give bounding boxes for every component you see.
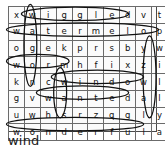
grid-cell[interactable]: o: [9, 40, 25, 57]
grid-cell[interactable]: s: [104, 40, 120, 57]
grid-cell[interactable]: p: [72, 40, 88, 57]
grid-cell[interactable]: v: [24, 90, 40, 107]
grid-cell[interactable]: w: [40, 90, 56, 107]
grid-cell[interactable]: q: [104, 107, 120, 124]
grid-cell[interactable]: z: [136, 57, 152, 74]
grid-cell[interactable]: w: [24, 7, 40, 24]
grid-cell[interactable]: d: [56, 124, 72, 141]
grid-cell[interactable]: e: [40, 40, 56, 57]
grid-cell[interactable]: e: [72, 124, 88, 141]
grid-cell[interactable]: g: [120, 107, 136, 124]
grid-row: xwiggledvt: [9, 7, 166, 24]
grid-cell[interactable]: g: [56, 7, 72, 24]
grid-row: watermelop: [9, 23, 166, 40]
grid-cell[interactable]: l: [136, 124, 152, 141]
grid-cell[interactable]: y: [152, 107, 165, 124]
grid-cell[interactable]: n: [24, 74, 40, 91]
grid-cell[interactable]: i: [72, 74, 88, 91]
grid-cell[interactable]: w: [24, 107, 40, 124]
grid-cell[interactable]: k: [9, 74, 25, 91]
grid-cell[interactable]: t: [152, 7, 165, 24]
word-search-puzzle: xwiggledvtwatermelopogekprsbywwormhfixzi…: [0, 0, 165, 158]
grid-cell[interactable]: l: [120, 23, 136, 40]
grid-cell[interactable]: o: [120, 74, 136, 91]
letter-grid-body: xwiggledvtwatermelopogekprsbywwormhfixzi…: [9, 7, 166, 141]
grid-cell[interactable]: k: [56, 40, 72, 57]
grid-cell[interactable]: e: [104, 23, 120, 40]
grid-cell[interactable]: t: [40, 23, 56, 40]
grid-cell[interactable]: s: [56, 107, 72, 124]
grid-cell[interactable]: e: [104, 90, 120, 107]
grid-cell[interactable]: p: [152, 23, 165, 40]
grid-cell[interactable]: r: [88, 124, 104, 141]
grid-cell[interactable]: g: [24, 40, 40, 57]
grid-cell[interactable]: o: [24, 57, 40, 74]
grid-cell[interactable]: d: [120, 7, 136, 24]
grid-row: wormhfixzi: [9, 57, 166, 74]
grid-cell[interactable]: n: [88, 74, 104, 91]
grid-cell[interactable]: w: [136, 74, 152, 91]
grid-cell[interactable]: w: [9, 23, 25, 40]
grid-cell[interactable]: o: [136, 23, 152, 40]
grid-cell[interactable]: e: [104, 7, 120, 24]
grid-cell[interactable]: m: [56, 57, 72, 74]
grid-cell[interactable]: l: [88, 7, 104, 24]
grid-cell[interactable]: r: [88, 40, 104, 57]
grid-cell[interactable]: r: [72, 23, 88, 40]
grid-cell[interactable]: g: [72, 7, 88, 24]
grid-cell[interactable]: i: [40, 7, 56, 24]
grid-cell[interactable]: g: [9, 90, 25, 107]
grid-cell[interactable]: l: [136, 107, 152, 124]
grid-cell[interactable]: x: [9, 7, 25, 24]
grid-cell[interactable]: c: [40, 74, 56, 91]
grid-cell[interactable]: r: [72, 107, 88, 124]
grid-cell[interactable]: n: [40, 124, 56, 141]
grid-cell[interactable]: w: [9, 57, 25, 74]
grid-cell[interactable]: b: [120, 40, 136, 57]
grid-row: kncwindowl: [9, 74, 166, 91]
grid-cell[interactable]: a: [136, 90, 152, 107]
grid-cell[interactable]: w: [152, 40, 165, 57]
grid-cell[interactable]: h: [72, 57, 88, 74]
grid-cell[interactable]: a: [56, 90, 72, 107]
grid-cell[interactable]: d: [104, 74, 120, 91]
grid-row: ogekprsbyw: [9, 40, 166, 57]
grid-cell[interactable]: z: [88, 107, 104, 124]
grid-cell[interactable]: h: [40, 107, 56, 124]
grid-cell[interactable]: f: [88, 57, 104, 74]
grid-cell[interactable]: l: [152, 90, 165, 107]
grid-cell[interactable]: a: [24, 23, 40, 40]
grid-cell[interactable]: i: [152, 57, 165, 74]
grid-cell[interactable]: u: [9, 107, 25, 124]
grid-row: uwhsrzqgly: [9, 107, 166, 124]
grid-cell[interactable]: n: [72, 90, 88, 107]
letter-grid: xwiggledvtwatermelopogekprsbywwormhfixzi…: [8, 6, 165, 141]
grid-cell[interactable]: r: [40, 57, 56, 74]
grid-cell[interactable]: u: [120, 124, 136, 141]
grid-cell[interactable]: x: [120, 57, 136, 74]
puzzle-grid-area: xwiggledvtwatermelopogekprsbywwormhfixzi…: [8, 6, 157, 132]
grid-cell[interactable]: i: [104, 57, 120, 74]
grid-cell[interactable]: l: [152, 74, 165, 91]
grid-row: gvwantedal: [9, 90, 166, 107]
grid-cell[interactable]: d: [120, 90, 136, 107]
caption-label: wind: [8, 133, 40, 148]
grid-cell[interactable]: a: [152, 124, 165, 141]
grid-cell[interactable]: e: [56, 23, 72, 40]
grid-cell[interactable]: y: [136, 40, 152, 57]
grid-cell[interactable]: w: [56, 74, 72, 91]
grid-cell[interactable]: f: [104, 124, 120, 141]
grid-cell[interactable]: v: [136, 7, 152, 24]
grid-cell[interactable]: t: [88, 90, 104, 107]
grid-cell[interactable]: m: [88, 23, 104, 40]
